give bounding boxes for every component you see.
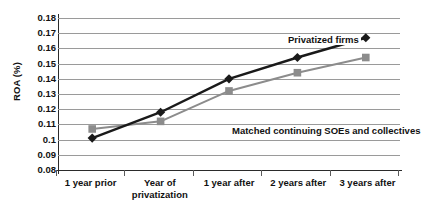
data-point-marker xyxy=(224,74,233,83)
x-tick-label: 1 year after xyxy=(194,174,263,212)
series-label-privatized-firms: Privatized firms xyxy=(286,35,361,45)
data-point-marker xyxy=(88,133,97,142)
y-tick-label: 0.08 xyxy=(12,165,56,175)
y-tick-label: 0.14 xyxy=(12,74,56,84)
x-axis-tick-labels: 1 year priorYear ofprivatization1 year a… xyxy=(56,174,402,212)
x-tick-label: 1 year prior xyxy=(56,174,125,212)
data-point-marker xyxy=(88,125,96,133)
x-tick-label: 2 years after xyxy=(264,174,333,212)
data-point-marker xyxy=(294,69,302,77)
y-tick-label: 0.15 xyxy=(12,59,56,69)
y-tick-label: 0.17 xyxy=(12,28,56,38)
data-point-marker xyxy=(361,33,370,42)
data-point-marker xyxy=(157,118,165,126)
x-tick-label: Year ofprivatization xyxy=(125,174,194,212)
x-axis-line xyxy=(56,170,402,171)
y-tick-label: 0.18 xyxy=(12,13,56,23)
data-point-marker xyxy=(362,54,370,62)
plot-area: Privatized firms Matched continuing SOEs… xyxy=(58,18,400,170)
y-tick-label: 0.12 xyxy=(12,104,56,114)
series-label-matched-soes: Matched continuing SOEs and collectives xyxy=(230,126,422,136)
y-axis-tick-labels: 0.180.170.160.150.140.130.120.110.10.090… xyxy=(12,0,56,213)
y-tick-label: 0.16 xyxy=(12,44,56,54)
y-tick-label: 0.13 xyxy=(12,89,56,99)
data-point-marker xyxy=(225,87,233,95)
y-tick-label: 0.11 xyxy=(12,120,56,130)
y-tick-label: 0.1 xyxy=(12,135,56,145)
data-point-marker xyxy=(156,108,165,117)
y-tick-label: 0.09 xyxy=(12,150,56,160)
data-point-marker xyxy=(293,53,302,62)
x-tick-label: 3 years after xyxy=(333,174,402,212)
